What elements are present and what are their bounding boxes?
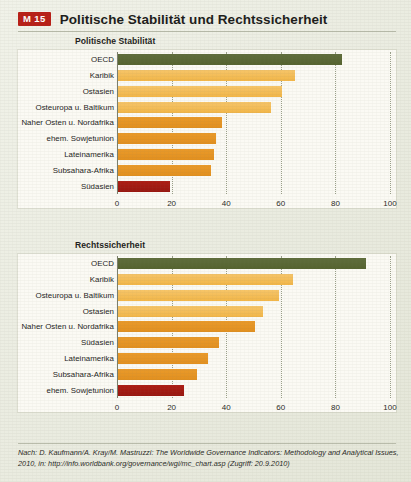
- chart-block-politische-stabilitaet: Politische Stabilität 020406080100OECDKa…: [18, 36, 396, 208]
- bar-row: ehem. Sowjetunion: [18, 383, 396, 397]
- bar-rows: OECDKaribikOsteuropa u. BaltikumOstasien…: [18, 256, 396, 398]
- x-axis-tick-label: 40: [222, 199, 231, 208]
- bar: [118, 337, 219, 348]
- bar: [118, 54, 342, 65]
- source-line-1: Nach: D. Kaufmann/A. Kray/M. Mastruzzi: …: [18, 448, 340, 457]
- poster-page: M 15 Politische Stabilität und Rechtssic…: [0, 0, 411, 482]
- bar: [118, 70, 295, 81]
- chart-block-rechtssicherheit: Rechtssicherheit 020406080100OECDKaribik…: [18, 240, 396, 412]
- bar: [118, 353, 208, 364]
- bar-row: Osteuropa u. Baltikum: [18, 100, 396, 114]
- x-axis-tick-label: 60: [276, 403, 285, 412]
- category-label: Naher Osten u. Nordafrika: [0, 118, 114, 127]
- category-label: Karibik: [0, 275, 114, 284]
- category-label: Karibik: [0, 71, 114, 80]
- bar-row: Naher Osten u. Nordafrika: [18, 116, 396, 130]
- bar-row: OECD: [18, 53, 396, 67]
- bar: [118, 274, 293, 285]
- x-axis-tick-label: 20: [167, 403, 176, 412]
- bar: [118, 369, 197, 380]
- bar: [118, 149, 214, 160]
- x-axis-tick-label: 100: [383, 403, 396, 412]
- bar: [118, 181, 170, 192]
- x-axis-tick-label: 100: [383, 199, 396, 208]
- chart-title-1: Politische Stabilität: [75, 36, 396, 46]
- category-label: Subsahara-Afrika: [0, 166, 114, 175]
- x-axis-tick-label: 0: [115, 199, 119, 208]
- bar-row: Osteuropa u. Baltikum: [18, 288, 396, 302]
- bar: [118, 290, 279, 301]
- bar: [118, 306, 263, 317]
- x-axis-tick-label: 80: [331, 403, 340, 412]
- category-label: Südasien: [0, 338, 114, 347]
- category-label: Lateinamerika: [0, 150, 114, 159]
- page-title: Politische Stabilität und Rechtssicherhe…: [60, 12, 328, 27]
- category-label: ehem. Sowjetunion: [0, 386, 114, 395]
- bar: [118, 117, 222, 128]
- x-axis-tick-label: 40: [222, 403, 231, 412]
- bar-row: OECD: [18, 257, 396, 271]
- bar-row: ehem. Sowjetunion: [18, 132, 396, 146]
- x-axis-tick-label: 60: [276, 199, 285, 208]
- bar-row: Südasien: [18, 179, 396, 193]
- material-badge: M 15: [18, 12, 51, 27]
- title-divider: [18, 31, 396, 32]
- category-label: Ostasien: [0, 87, 114, 96]
- plot-area-1: 020406080100OECDKaribikOstasienOsteuropa…: [18, 50, 396, 208]
- source-note: Nach: D. Kaufmann/A. Kray/M. Mastruzzi: …: [18, 447, 400, 470]
- bar-row: Lateinamerika: [18, 351, 396, 365]
- bar: [118, 321, 255, 332]
- bar-row: Ostasien: [18, 304, 396, 318]
- x-axis-tick-label: 20: [167, 199, 176, 208]
- bar: [118, 102, 271, 113]
- bar: [118, 258, 366, 269]
- bar-row: Lateinamerika: [18, 147, 396, 161]
- bar-row: Subsahara-Afrika: [18, 367, 396, 381]
- bar-row: Südasien: [18, 336, 396, 350]
- chart-title-2: Rechtssicherheit: [75, 240, 396, 250]
- x-axis-tick-label: 80: [331, 199, 340, 208]
- bar-row: Karibik: [18, 273, 396, 287]
- bar: [118, 165, 211, 176]
- bar-row: Ostasien: [18, 84, 396, 98]
- plot-area-2: 020406080100OECDKaribikOsteuropa u. Balt…: [18, 254, 396, 412]
- category-label: Südasien: [0, 182, 114, 191]
- x-axis-tick-label: 0: [115, 403, 119, 412]
- bar-row: Naher Osten u. Nordafrika: [18, 320, 396, 334]
- bar-rows: OECDKaribikOstasienOsteuropa u. Baltikum…: [18, 52, 396, 194]
- category-label: Osteuropa u. Baltikum: [0, 291, 114, 300]
- category-label: OECD: [0, 259, 114, 268]
- bar-row: Karibik: [18, 69, 396, 83]
- category-label: Lateinamerika: [0, 354, 114, 363]
- category-label: Subsahara-Afrika: [0, 370, 114, 379]
- category-label: OECD: [0, 55, 114, 64]
- category-label: Ostasien: [0, 307, 114, 316]
- bar: [118, 385, 184, 396]
- bar-row: Subsahara-Afrika: [18, 163, 396, 177]
- category-label: Osteuropa u. Baltikum: [0, 103, 114, 112]
- bar: [118, 86, 282, 97]
- category-label: ehem. Sowjetunion: [0, 134, 114, 143]
- category-label: Naher Osten u. Nordafrika: [0, 322, 114, 331]
- bar: [118, 133, 216, 144]
- source-divider: [18, 443, 396, 444]
- header: M 15 Politische Stabilität und Rechtssic…: [18, 8, 401, 30]
